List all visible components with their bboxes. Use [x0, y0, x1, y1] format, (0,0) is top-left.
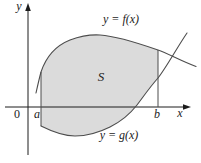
region-s — [41, 35, 158, 136]
region-s-label: S — [98, 69, 105, 84]
y-axis-arrowhead — [25, 3, 31, 11]
area-between-curves-figure: y x 0 a b S y = f(x) y = g(x) — [0, 0, 201, 163]
f-curve-label: y = f(x) — [102, 12, 139, 26]
x-axis-arrowhead — [183, 104, 191, 110]
g-curve-label: y = g(x) — [99, 128, 139, 142]
origin-label: 0 — [14, 107, 20, 121]
figure-svg: y x 0 a b S y = f(x) y = g(x) — [0, 0, 201, 163]
a-label: a — [34, 107, 40, 121]
y-axis-label: y — [15, 0, 22, 13]
b-label: b — [154, 107, 160, 121]
x-axis-label: x — [176, 106, 183, 120]
